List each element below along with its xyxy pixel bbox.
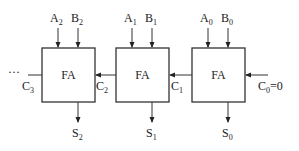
input-label-a0: A0	[200, 11, 213, 27]
input-label-b0: B0	[221, 11, 233, 27]
carry-in-label: C0=0	[258, 79, 283, 95]
carry-label-c1: C1	[171, 79, 183, 95]
sum-label-s0: S0	[222, 126, 233, 142]
carry-in: C0=0	[246, 75, 283, 95]
full-adder-block-2: FA A2 B2 S2 ··· C3	[8, 11, 95, 142]
carry-label-c2: C2	[96, 79, 108, 95]
fa-label: FA	[135, 68, 150, 82]
input-label-a1: A1	[124, 11, 137, 27]
sum-label-s2: S2	[72, 126, 83, 142]
ripple-carry-adder-diagram: FA A2 B2 S2 ··· C3 FA A1 B1 S1 C2 FA A0 …	[0, 0, 299, 151]
full-adder-block-1: FA A1 B1 S1 C2	[96, 11, 169, 142]
input-label-b1: B1	[145, 11, 157, 27]
input-label-b2: B2	[71, 11, 83, 27]
fa-label: FA	[61, 68, 76, 82]
full-adder-block-0: FA A0 B0 S0 C1	[170, 11, 245, 142]
sum-label-s1: S1	[146, 126, 157, 142]
input-label-a2: A2	[50, 11, 63, 27]
continuation-dots: ···	[8, 65, 20, 79]
carry-label-c3: C3	[22, 79, 34, 95]
fa-label: FA	[211, 68, 226, 82]
